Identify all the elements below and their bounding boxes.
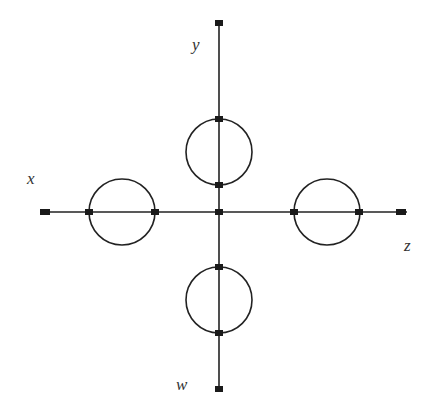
label-x: x xyxy=(26,169,35,188)
node-top-outer xyxy=(215,116,223,122)
node-top-inner xyxy=(215,182,223,188)
node-bottom-inner xyxy=(215,264,223,270)
endpoint-z-node xyxy=(396,209,406,215)
label-z: z xyxy=(403,236,411,255)
node-left-inner xyxy=(151,209,159,215)
label-y: y xyxy=(190,35,200,54)
center-node xyxy=(215,209,223,215)
node-right-outer xyxy=(355,209,363,215)
endpoint-y-node xyxy=(215,20,223,26)
node-bottom-outer xyxy=(215,330,223,336)
node-right-inner xyxy=(290,209,298,215)
endpoint-w-node xyxy=(215,386,223,392)
endpoint-x-node xyxy=(40,209,50,215)
label-w: w xyxy=(176,375,188,394)
diagram-canvas: x y z w xyxy=(0,0,437,420)
node-left-outer xyxy=(85,209,93,215)
